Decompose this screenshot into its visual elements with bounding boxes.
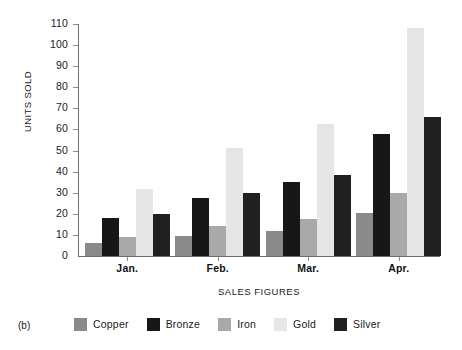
legend-label: Silver xyxy=(353,318,380,330)
x-axis-title: SALES FIGURES xyxy=(78,286,440,297)
bar-bronze-mar xyxy=(283,182,300,256)
x-tick-mark xyxy=(127,257,128,261)
bar-bronze-apr xyxy=(373,134,390,256)
bar-gold-mar xyxy=(317,124,334,256)
legend-label: Copper xyxy=(93,318,129,330)
legend-label: Iron xyxy=(237,318,256,330)
legend-label: Gold xyxy=(293,318,316,330)
bar-silver-mar xyxy=(334,175,351,256)
y-axis-title: UNITS SOLD xyxy=(22,47,33,157)
legend-item-copper[interactable]: Copper xyxy=(74,318,129,331)
y-tick-label: 100 xyxy=(50,38,68,50)
bar-group xyxy=(266,24,351,256)
bar-iron-feb xyxy=(209,226,226,256)
legend-swatch-iron xyxy=(218,318,231,331)
y-tick-label: 0 xyxy=(62,249,68,261)
y-tick-label: 20 xyxy=(56,207,68,219)
bar-iron-mar xyxy=(300,219,317,256)
legend-swatch-silver xyxy=(334,318,347,331)
bar-group xyxy=(356,24,441,256)
y-tick-label: 110 xyxy=(51,17,68,29)
x-tick-label: Jan. xyxy=(97,262,157,274)
bar-copper-feb xyxy=(175,236,192,256)
x-tick-mark xyxy=(218,257,219,261)
x-tick-label: Apr. xyxy=(369,262,429,274)
bar-copper-mar xyxy=(266,231,283,256)
bar-chart-figure: UNITS SOLD 0102030405060708090100110 Jan… xyxy=(0,0,462,350)
legend-item-gold[interactable]: Gold xyxy=(274,318,316,331)
bar-silver-feb xyxy=(243,193,260,256)
bar-silver-apr xyxy=(424,117,441,256)
bar-copper-jan xyxy=(85,243,102,256)
bar-group xyxy=(175,24,260,256)
bar-gold-jan xyxy=(136,189,153,256)
y-tick-label: 50 xyxy=(56,144,68,156)
bar-iron-apr xyxy=(390,193,407,256)
legend-item-silver[interactable]: Silver xyxy=(334,318,380,331)
y-tick-label: 30 xyxy=(56,186,68,198)
legend-label: Bronze xyxy=(166,318,200,330)
bar-gold-apr xyxy=(407,28,424,256)
legend-swatch-copper xyxy=(74,318,87,331)
x-tick-label: Mar. xyxy=(278,262,338,274)
bar-copper-apr xyxy=(356,213,373,256)
y-tick-label: 40 xyxy=(56,165,68,177)
bar-silver-jan xyxy=(153,214,170,256)
y-tick-label: 60 xyxy=(56,122,68,134)
x-tick-mark xyxy=(399,257,400,261)
y-tick-label: 10 xyxy=(56,228,68,240)
x-tick-label: Feb. xyxy=(188,262,248,274)
bar-group xyxy=(85,24,170,256)
y-tick-label: 80 xyxy=(56,80,68,92)
bar-gold-feb xyxy=(226,148,243,256)
legend-swatch-bronze xyxy=(147,318,160,331)
bar-bronze-jan xyxy=(102,218,119,256)
x-tick-mark xyxy=(308,257,309,261)
y-tick-label: 90 xyxy=(56,59,68,71)
bar-bronze-feb xyxy=(192,198,209,256)
plot-area xyxy=(78,24,440,256)
y-tick-label: 70 xyxy=(56,101,68,113)
chart-legend: CopperBronzeIronGoldSilver xyxy=(74,313,454,335)
legend-item-iron[interactable]: Iron xyxy=(218,318,256,331)
legend-swatch-gold xyxy=(274,318,287,331)
legend-item-bronze[interactable]: Bronze xyxy=(147,318,200,331)
figure-caption: (b) xyxy=(18,320,30,331)
bar-iron-jan xyxy=(119,237,136,256)
x-axis-line xyxy=(78,256,440,257)
